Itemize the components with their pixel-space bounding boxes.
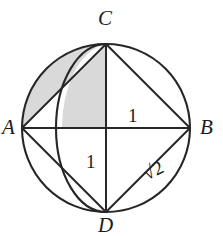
segment-CB [106, 44, 190, 128]
vertex-label-d: D [98, 215, 113, 236]
length-label-cb: 1 [128, 106, 138, 125]
vertex-label-a: A [2, 117, 15, 138]
length-label-od: 1 [86, 152, 96, 171]
vertex-label-c: C [98, 8, 112, 29]
vertex-label-b: B [200, 117, 213, 138]
geometry-figure [0, 0, 223, 236]
